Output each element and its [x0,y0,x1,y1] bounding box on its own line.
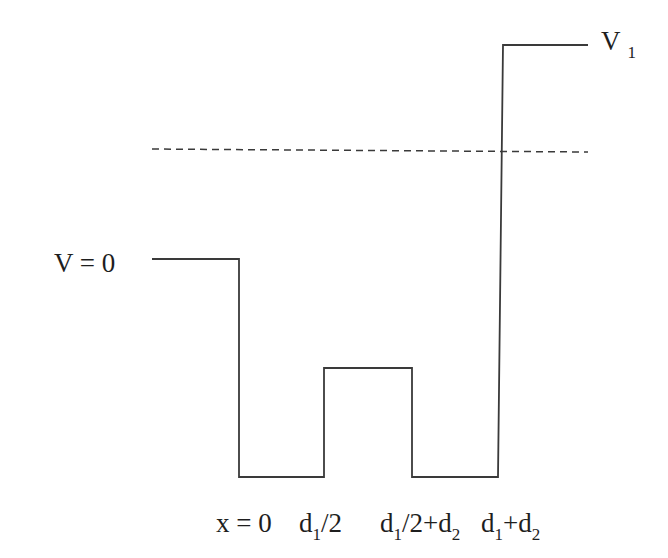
v1-label: V1 [601,28,636,55]
d1-d2-mid: +d [503,508,532,538]
potential-diagram [0,0,668,558]
d1-half-label: d1/2 [299,510,342,537]
d1h-d2-sub1: 1 [394,525,403,544]
d1-half-plus-d2-label: d1/2+d2 [380,510,460,537]
d1h-d2-sub2: 2 [452,525,461,544]
v1-subscript: 1 [628,43,637,62]
x0-label: x = 0 [216,510,272,537]
d1-half-d: d [299,508,313,538]
d1-half-post: /2 [321,508,342,538]
d1-d2-sub1: 1 [495,525,504,544]
v0-text: V = 0 [54,248,115,278]
x0-text: x = 0 [216,508,272,538]
v0-label: V = 0 [54,250,115,277]
potential-profile-line [152,45,588,477]
v1-main: V [601,26,621,56]
d1-half-sub: 1 [313,525,322,544]
energy-level-dashed-line [152,149,588,152]
d1-d2-d: d [481,508,495,538]
d1-d2-sub2: 2 [532,525,541,544]
d1h-d2-d: d [380,508,394,538]
d1-plus-d2-label: d1+d2 [481,510,540,537]
d1h-d2-mid: /2+d [402,508,452,538]
